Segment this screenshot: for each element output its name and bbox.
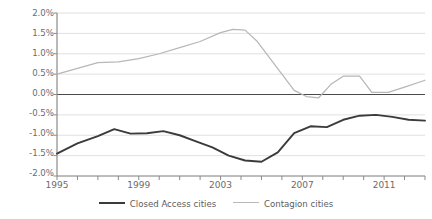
chart-container: net domestic migration 2.0% 1.5% 1.0% 0.…	[0, 0, 432, 219]
legend-item-closed-access: Closed Access cities	[99, 198, 216, 209]
legend-swatch-contagion	[233, 202, 259, 203]
gridlines	[57, 13, 425, 176]
legend-label-contagion: Contagion cities	[264, 199, 333, 209]
x-tick-label: 1995	[37, 180, 77, 191]
series-line-closed-access	[57, 115, 425, 162]
series-line-contagion	[57, 29, 425, 97]
x-tick-label: 2011	[364, 180, 404, 191]
x-tick-label: 1999	[119, 180, 159, 191]
data-series	[57, 29, 425, 161]
x-tick-label: 2003	[201, 180, 241, 191]
legend-swatch-closed-access	[99, 202, 125, 204]
legend-label-closed-access: Closed Access cities	[130, 199, 216, 209]
legend-item-contagion: Contagion cities	[233, 198, 333, 209]
plot-area	[0, 0, 432, 196]
chart-legend: Closed Access cities Contagion cities	[0, 198, 432, 209]
x-tick-label: 2007	[282, 180, 322, 191]
